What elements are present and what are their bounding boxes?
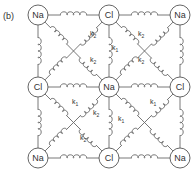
spring-constant-k2: k2 <box>80 134 87 143</box>
atom-label: Cl <box>176 82 185 92</box>
atom-label: Cl <box>34 82 43 92</box>
spring-constant-k2: k2 <box>90 30 97 39</box>
atom-label: Cl <box>105 10 114 20</box>
spring <box>119 155 170 158</box>
spring <box>119 12 170 15</box>
atom-label: Na <box>32 10 44 20</box>
spring-constant-k1: k1 <box>72 98 79 107</box>
atom-cl: Cl <box>99 148 119 168</box>
diagonal-spring <box>45 94 73 122</box>
diagonal-spring <box>145 94 173 122</box>
spring-constant-k1: k1 <box>150 98 157 107</box>
atom-label: Na <box>174 10 186 20</box>
spring-constant-k2: k2 <box>90 56 97 65</box>
spring <box>109 97 112 148</box>
diagonal-spring <box>74 94 102 122</box>
atom-cl: Cl <box>99 5 119 25</box>
spring-constant-k1: k1 <box>118 115 125 124</box>
diagonal-spring <box>145 22 173 51</box>
diagonal-spring <box>45 51 73 80</box>
spring <box>109 25 112 77</box>
atom-cl: Cl <box>28 77 48 97</box>
atom-label: Na <box>32 153 44 163</box>
spring <box>180 25 183 77</box>
atom-na: Na <box>170 5 190 25</box>
atom-label: Cl <box>105 153 114 163</box>
spring <box>48 84 99 87</box>
nacl-spring-lattice-diagram: (b) NaClNaClNaClNaClNa k2k2k1k2k2k1k2k2k… <box>0 0 196 174</box>
spring-constant-k2: k2 <box>138 56 145 65</box>
diagonal-spring <box>74 51 102 80</box>
spring <box>38 25 41 77</box>
atom-label: Na <box>174 153 186 163</box>
diagonal-spring <box>45 22 73 51</box>
diagonal-spring <box>74 22 102 51</box>
spring <box>48 155 99 158</box>
atom-label: Na <box>103 82 115 92</box>
atom-na: Na <box>99 77 119 97</box>
atom-na: Na <box>28 5 48 25</box>
atom-cl: Cl <box>170 77 190 97</box>
spring <box>119 84 170 87</box>
spring-constant-k1: k1 <box>112 44 119 53</box>
diagonal-spring <box>74 123 102 151</box>
spring <box>180 97 183 148</box>
spring-constant-k2: k2 <box>93 109 100 118</box>
spring <box>48 12 99 15</box>
diagonal-spring <box>145 51 173 80</box>
panel-label: (b) <box>3 11 14 21</box>
spring-constant-k2: k2 <box>138 30 145 39</box>
spring <box>38 97 41 148</box>
diagonal-spring <box>145 123 173 151</box>
diagonal-spring <box>116 123 144 151</box>
diagonal-spring <box>45 123 73 151</box>
atom-na: Na <box>170 148 190 168</box>
atom-na: Na <box>28 148 48 168</box>
